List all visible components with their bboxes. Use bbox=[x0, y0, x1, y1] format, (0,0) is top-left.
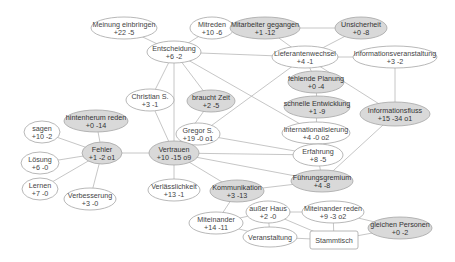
node-vertrauen[interactable]: Vertrauen+10 -15 o9 bbox=[149, 141, 199, 165]
node-score: +13 -1 bbox=[164, 190, 185, 199]
node-score: +8 -5 bbox=[310, 155, 327, 164]
node-score: +1 -2 o1 bbox=[89, 153, 116, 162]
node-miteinanderreden[interactable]: Miteinander reden+9 -3 o2 bbox=[302, 201, 364, 223]
node-international[interactable]: Internationalisierung+4 -0 o2 bbox=[282, 122, 350, 144]
node-zeit[interactable]: braucht Zeit+2 -5 bbox=[187, 90, 235, 112]
node-score: +7 -0 bbox=[32, 189, 49, 198]
node-kommunikation[interactable]: Kommunikation+3 -13 bbox=[210, 180, 264, 202]
node-miteinander[interactable]: Miteinander+14 -11 bbox=[189, 212, 243, 234]
node-loesung[interactable]: Lösung+6 -0 bbox=[21, 152, 59, 174]
node-score: +3 -0 bbox=[82, 199, 99, 208]
node-verlaesslichkeit[interactable]: Verlässlichkeit+13 -1 bbox=[148, 179, 200, 201]
node-title: Stammtisch bbox=[315, 236, 353, 245]
node-lernen[interactable]: Lernen+7 -0 bbox=[22, 178, 58, 200]
node-infoveranst[interactable]: Informationsveranstaltung+3 -2 bbox=[353, 46, 437, 68]
node-mitarbeiter[interactable]: Mitarbeiter gegangen+1 -12 bbox=[230, 17, 300, 39]
node-score: +22 -5 bbox=[114, 28, 135, 37]
node-score: +0 -2 bbox=[392, 228, 409, 237]
node-score: +2 -5 bbox=[203, 101, 220, 110]
node-score: +14 -11 bbox=[204, 223, 228, 232]
node-score: +15 -34 o1 bbox=[378, 114, 413, 123]
node-hintenherum[interactable]: hintenherum reden+0 -14 bbox=[64, 110, 128, 132]
node-score: +9 -3 o2 bbox=[320, 212, 347, 221]
node-infofluss[interactable]: Informationsfluss+15 -34 o1 bbox=[360, 102, 430, 126]
node-score: +1 -9 bbox=[309, 107, 326, 116]
node-unsicherheit[interactable]: Unsicherheit+0 -8 bbox=[335, 17, 387, 39]
node-score: +3 -2 bbox=[387, 57, 404, 66]
node-ausserhaus[interactable]: außer Haus+2 -0 bbox=[246, 201, 290, 223]
node-erfahrung[interactable]: Erfahrung+8 -5 bbox=[293, 144, 343, 166]
node-meinung[interactable]: Meinung einbringen+22 -5 bbox=[91, 17, 157, 39]
node-score: +4 -1 bbox=[297, 57, 314, 66]
node-veranstaltung[interactable]: Veranstaltung bbox=[243, 227, 297, 247]
node-gleichen[interactable]: gleichen Personen+0 -2 bbox=[368, 217, 432, 239]
node-sagen[interactable]: sagen+10 -2 bbox=[24, 121, 60, 143]
node-mitreden[interactable]: Mitreden+10 -6 bbox=[190, 17, 234, 39]
node-score: +19 -0 o1 bbox=[183, 134, 214, 143]
node-score: +0 -8 bbox=[353, 28, 370, 37]
node-fehler[interactable]: Fehler+1 -2 o1 bbox=[82, 142, 122, 164]
node-stammtisch[interactable]: Stammtisch bbox=[310, 231, 358, 249]
node-score: +0 -4 bbox=[308, 82, 325, 91]
node-fuehrung[interactable]: Führungsgremium+4 -8 bbox=[291, 170, 353, 192]
node-score: +6 -2 bbox=[166, 52, 183, 61]
node-score: +1 -12 bbox=[255, 28, 276, 37]
node-entscheidung[interactable]: Entscheidung+6 -2 bbox=[147, 41, 201, 63]
node-planung[interactable]: fehlende Planung+0 -4 bbox=[288, 71, 344, 93]
node-score: +4 -0 o2 bbox=[303, 133, 330, 142]
node-score: +10 -15 o9 bbox=[157, 153, 192, 162]
node-score: +10 -2 bbox=[32, 132, 53, 141]
node-verbesserung[interactable]: Verbesserung+3 -0 bbox=[64, 188, 116, 210]
node-entwicklung[interactable]: schnelle Entwicklung+1 -9 bbox=[284, 96, 351, 118]
node-score: +3 -13 bbox=[227, 191, 248, 200]
node-score: +4 -8 bbox=[314, 181, 331, 190]
node-score: +3 -1 bbox=[142, 100, 159, 109]
node-score: +10 -6 bbox=[202, 28, 223, 37]
node-lieferanten[interactable]: Lieferantenwechsel+4 -1 bbox=[272, 46, 338, 68]
node-score: +6 -0 bbox=[32, 163, 49, 172]
concept-map: Meinung einbringen+22 -5Mitreden+10 -6Mi… bbox=[0, 0, 455, 262]
node-score: +2 -0 bbox=[260, 212, 277, 221]
node-score: +0 -14 bbox=[86, 121, 107, 130]
node-title: Veranstaltung bbox=[248, 233, 292, 242]
node-christian[interactable]: Christian S.+3 -1 bbox=[126, 89, 174, 111]
